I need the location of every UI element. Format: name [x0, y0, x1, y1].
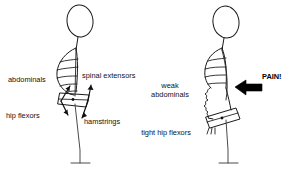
- label-pain: PAIN!: [262, 72, 282, 81]
- label-weak-abdominals-line2: abdominals: [151, 90, 189, 99]
- pain-arrow: [235, 80, 262, 95]
- label-hip-flexors: hip flexors: [6, 111, 40, 120]
- anterior-pelvic-tilt-figure: weak abdominals tight hip flexors PAIN!: [141, 4, 281, 163]
- label-hamstrings: hamstrings: [84, 117, 120, 126]
- hip-flexors-arrow: [61, 101, 68, 115]
- leg-left: [75, 104, 80, 163]
- hip-joint-dot-left: [72, 98, 75, 101]
- head-right: [211, 4, 241, 39]
- label-spinal-extensors: spinal extensors: [82, 71, 136, 80]
- label-weak-abdominals-line1: weak: [160, 81, 179, 90]
- spinal-extensors-arrow: [88, 85, 94, 101]
- neutral-posture-figure: abdominals spinal extensors hip flexors …: [6, 4, 136, 163]
- weak-abdominal-wall-right: [204, 88, 213, 119]
- rib-line-1-right: [208, 58, 226, 61]
- label-tight-hip-flexors: tight hip flexors: [141, 128, 191, 137]
- rib-line-2-left: [57, 67, 78, 70]
- hip-flexor-hatch-2-right: [211, 128, 212, 134]
- rib-line-3-right: [205, 75, 226, 77]
- hamstrings-arrow: [82, 101, 88, 118]
- rib-line-4-left: [60, 84, 77, 86]
- diagram-canvas: abdominals spinal extensors hip flexors …: [0, 0, 293, 177]
- rib-line-4-right: [208, 83, 226, 84]
- leg-right: [226, 120, 228, 163]
- head-left: [65, 4, 94, 39]
- lower-back-right: [226, 88, 231, 110]
- rib-line-3-left: [57, 76, 77, 78]
- posture-diagram: abdominals spinal extensors hip flexors …: [0, 0, 293, 177]
- ribcage-front-left: [57, 48, 76, 95]
- hip-joint-dot-right: [221, 117, 224, 120]
- hip-flexor-hatch-1-right: [207, 128, 209, 134]
- label-abdominals: abdominals: [8, 75, 46, 84]
- rib-line-2-right: [205, 67, 226, 69]
